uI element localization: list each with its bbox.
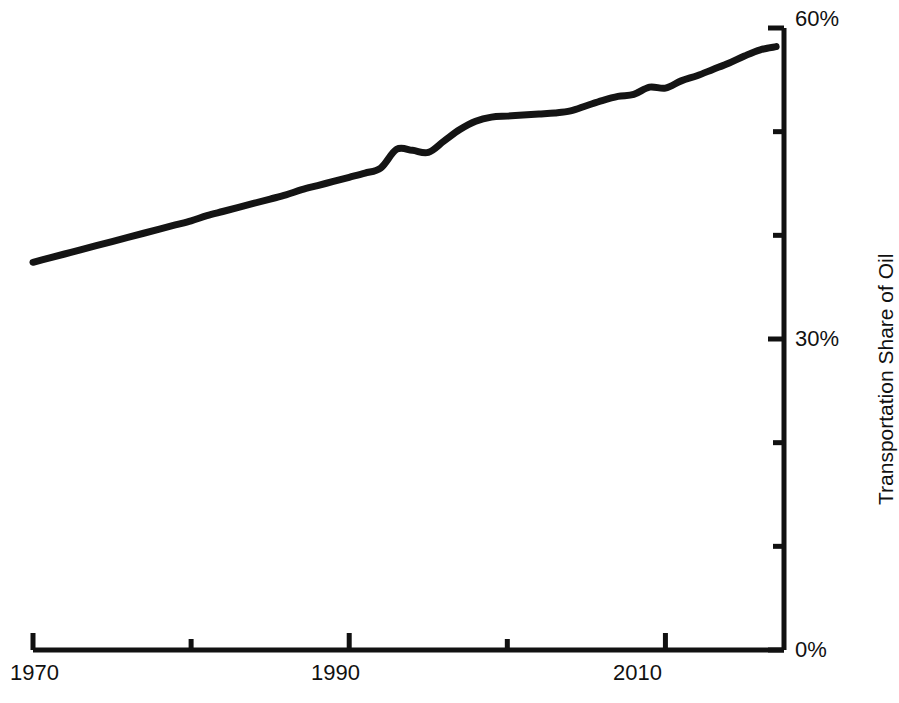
x-tick-label-1970: 1970 xyxy=(10,660,59,686)
x-axis-ticks xyxy=(33,633,665,650)
data-series-group xyxy=(33,47,776,263)
y-tick-label-60: 60% xyxy=(795,6,839,32)
y-axis-title: Transportation Share of Oil xyxy=(874,254,898,505)
chart-plot-area xyxy=(0,0,899,703)
y-tick-label-0: 0% xyxy=(795,637,827,663)
axis-group xyxy=(33,28,784,650)
x-tick-label-2010: 2010 xyxy=(613,660,662,686)
x-tick-label-1990: 1990 xyxy=(311,660,360,686)
data-line-transportation-share-of-oil xyxy=(33,47,776,263)
y-tick-label-30: 30% xyxy=(795,326,839,352)
chart-container: 60% 30% 0% 1970 1990 2010 Transportation… xyxy=(0,0,899,703)
